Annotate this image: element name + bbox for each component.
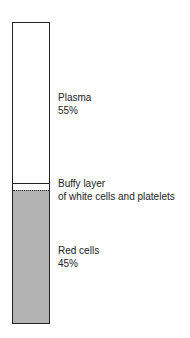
buffy-label: Buffy layer of white cells and platelets <box>58 177 175 203</box>
buffy-layer-line <box>13 183 49 184</box>
red-cells-percent: 45% <box>58 257 99 270</box>
plasma-name: Plasma <box>58 91 91 104</box>
plasma-percent: 55% <box>58 104 91 117</box>
buffy-sublabel: of white cells and platelets <box>58 190 175 203</box>
plasma-label: Plasma 55% <box>58 91 91 117</box>
red-cells-layer <box>13 190 49 323</box>
buffy-name: Buffy layer <box>58 177 175 190</box>
red-cells-label: Red cells 45% <box>58 244 99 270</box>
blood-tube <box>12 22 50 324</box>
red-cells-name: Red cells <box>58 244 99 257</box>
